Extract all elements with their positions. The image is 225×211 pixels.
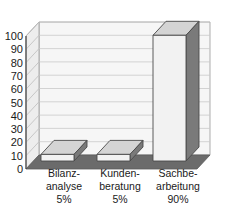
category-value-label: 5% [112, 193, 127, 205]
bar-front-face [41, 154, 74, 161]
y-tick-100: 100 [5, 30, 23, 42]
y-tick-90: 90 [11, 43, 23, 55]
category-label-line2: analyse [46, 180, 82, 192]
bar-chart-3d: 100 90 80 70 60 50 40 30 20 10 0 Bilanz-… [0, 0, 225, 211]
category-label-bilanzanalyse: Bilanz- analyse 5% [46, 167, 82, 205]
category-value-label: 90% [167, 193, 188, 205]
category-value-label: 5% [56, 193, 71, 205]
category-label-sachbearbeitung: Sachbe- arbeitung 90% [156, 167, 200, 205]
category-label-line1: Sachbe- [158, 167, 198, 179]
category-label-line1: Bilanz- [48, 167, 81, 179]
y-tick-60: 60 [11, 83, 23, 95]
category-label-line2: beratung [99, 180, 141, 192]
bar-front-face [97, 154, 130, 161]
y-tick-10: 10 [11, 150, 23, 162]
y-tick-40: 40 [11, 110, 23, 122]
chart-canvas: 100 90 80 70 60 50 40 30 20 10 0 Bilanz-… [0, 0, 225, 211]
y-tick-80: 80 [11, 57, 23, 69]
y-tick-20: 20 [11, 136, 23, 148]
bar-sachbearbeitung[interactable] [153, 21, 199, 161]
y-tick-70: 70 [11, 70, 23, 82]
bar-front-face [153, 35, 186, 161]
bar-side-face [186, 21, 199, 161]
y-tick-30: 30 [11, 123, 23, 135]
y-tick-50: 50 [11, 97, 23, 109]
category-label-line2: arbeitung [156, 180, 200, 192]
y-tick-0: 0 [17, 163, 23, 175]
y-axis-tick-labels: 100 90 80 70 60 50 40 30 20 10 0 [5, 30, 23, 175]
category-label-line1: Kunden- [100, 167, 140, 179]
category-label-kundenberatung: Kunden- beratung 5% [99, 167, 141, 205]
